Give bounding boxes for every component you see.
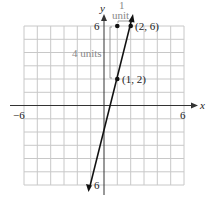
x-axis-label: x [199, 99, 205, 111]
point-b-label: (1, 2) [122, 73, 146, 86]
x-min-tick: −6 [13, 109, 25, 121]
point-a-label: (2, 6) [135, 20, 159, 33]
x-axis-arrow-icon [191, 103, 198, 109]
y-axis-label: y [99, 2, 105, 14]
y-max-tick: 6 [94, 20, 100, 32]
coordinate-plane: y x −6 6 6 6 (2, 6) (1, 2) 1 unit 4 unit… [0, 0, 210, 197]
point-2-6 [128, 24, 133, 29]
line-arrow-up-icon [129, 14, 135, 23]
point-1-2 [115, 77, 120, 82]
rise-label: 4 units [72, 47, 102, 59]
run-label: unit [112, 9, 129, 21]
y-axis-arrow-icon [101, 14, 107, 21]
run-bracket [118, 21, 130, 23]
y-min-tick: 6 [94, 179, 100, 191]
x-max-tick: 6 [180, 109, 186, 121]
point-1-6 [115, 24, 120, 29]
y-axis [101, 14, 107, 195]
